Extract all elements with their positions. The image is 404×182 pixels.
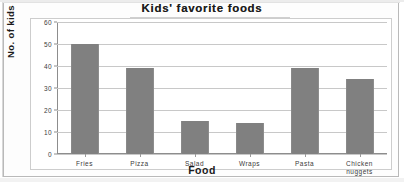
- x-axis-title: Food: [0, 164, 404, 176]
- bar-slot: Fries: [57, 22, 112, 154]
- x-tick-mark: [85, 154, 86, 157]
- bar-slot: Pizza: [112, 22, 167, 154]
- y-axis-title: No. of kids: [5, 5, 16, 58]
- bar[interactable]: [126, 68, 154, 154]
- y-tick-label: 40: [44, 63, 52, 70]
- bar[interactable]: [346, 79, 374, 154]
- bar-slot: Wraps: [222, 22, 277, 154]
- bar[interactable]: [71, 44, 99, 154]
- bar[interactable]: [291, 68, 319, 154]
- y-tick-label: 30: [44, 85, 52, 92]
- bar[interactable]: [181, 121, 209, 154]
- y-tick-label: 50: [44, 41, 52, 48]
- y-tick-label: 20: [44, 107, 52, 114]
- x-tick-mark: [140, 154, 141, 157]
- y-tick-label: 60: [44, 19, 52, 26]
- bar-slot: Salad: [167, 22, 222, 154]
- scan-edge-bottom: [0, 178, 404, 182]
- y-tick-label: 0: [48, 151, 52, 158]
- x-tick-mark: [195, 154, 196, 157]
- plot-area: 0102030405060 FriesPizzaSaladWrapsPastaC…: [57, 22, 387, 154]
- bar-slot: Chicken nuggets: [332, 22, 387, 154]
- gridline: [57, 154, 387, 155]
- bar-slot: Pasta: [277, 22, 332, 154]
- bar-chart-figure: Kids' favorite foods 0102030405060 Fries…: [0, 0, 404, 182]
- x-tick-mark: [360, 154, 361, 157]
- x-tick-mark: [305, 154, 306, 157]
- x-tick-mark: [250, 154, 251, 157]
- bar[interactable]: [236, 123, 264, 154]
- chart-title: Kids' favorite foods: [0, 2, 404, 14]
- y-tick-label: 10: [44, 129, 52, 136]
- bars-group: FriesPizzaSaladWrapsPastaChicken nuggets: [57, 22, 387, 154]
